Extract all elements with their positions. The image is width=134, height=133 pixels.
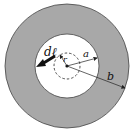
label-a: a	[83, 48, 89, 59]
coax-diagram: dℓ r a b	[0, 0, 134, 133]
label-b: b	[107, 70, 114, 83]
label-dl: dℓ	[44, 45, 57, 59]
